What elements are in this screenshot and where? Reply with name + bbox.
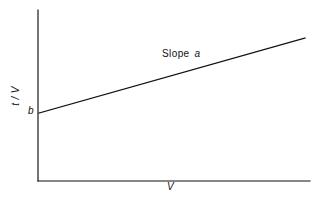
slope-annotation: Slopea: [162, 49, 201, 59]
slope-annotation-symbol: a: [195, 48, 201, 59]
plot-figure: t / V V b Slopea: [0, 0, 315, 203]
slope-annotation-word: Slope: [162, 48, 190, 59]
plot-canvas: [0, 0, 315, 203]
y-intercept-label: b: [28, 106, 34, 116]
y-axis-label-text: t / V: [11, 86, 21, 105]
x-axis-label: V: [167, 182, 174, 192]
y-axis-label: t / V: [9, 78, 23, 114]
